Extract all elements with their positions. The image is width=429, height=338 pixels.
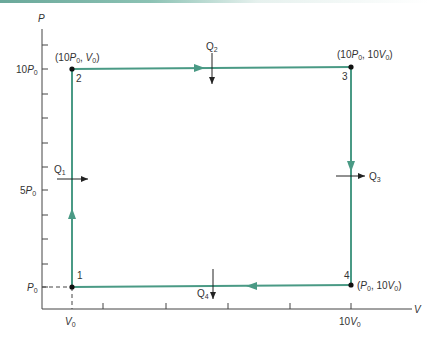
heat-q4: Q4 bbox=[197, 269, 213, 300]
point-2-coords: (10P0, V0) bbox=[55, 52, 100, 64]
point-2-label: 2 bbox=[76, 73, 82, 84]
arrow-right-icon bbox=[194, 64, 205, 72]
x-tick-v0: V0 bbox=[65, 316, 76, 328]
point-3 bbox=[348, 64, 353, 69]
y-tick-10p0: 10P0 bbox=[16, 64, 38, 76]
svg-text:(P0, 10V0): (P0, 10V0) bbox=[357, 280, 402, 292]
pv-diagram: P V 10P0 5P0 P0 V0 10V0 1 2 3 4 (10 bbox=[0, 0, 429, 338]
svg-text:(10P0, V0): (10P0, V0) bbox=[55, 52, 100, 64]
svg-text:Q3: Q3 bbox=[369, 171, 381, 183]
y-axis-label: P bbox=[38, 13, 45, 24]
heat-q3: Q3 bbox=[336, 171, 381, 183]
axes bbox=[42, 29, 412, 309]
point-4-label: 4 bbox=[344, 270, 350, 281]
point-2 bbox=[69, 66, 74, 71]
svg-text:10P0: 10P0 bbox=[16, 64, 38, 76]
heat-q2: Q2 bbox=[206, 41, 218, 84]
point-4-coords: (P0, 10V0) bbox=[357, 280, 402, 292]
x-axis-label: V bbox=[414, 304, 422, 315]
cycle-path bbox=[72, 67, 351, 287]
path-direction-arrows bbox=[68, 64, 355, 290]
point-1 bbox=[69, 284, 74, 289]
svg-text:Q1: Q1 bbox=[54, 164, 66, 176]
arrow-down-icon bbox=[347, 161, 355, 172]
point-3-coords: (10P0, 10V0) bbox=[337, 49, 393, 61]
svg-text:5P0: 5P0 bbox=[20, 185, 36, 197]
arrow-up-icon bbox=[68, 208, 76, 219]
svg-text:(10P0, 10V0): (10P0, 10V0) bbox=[337, 49, 393, 61]
state-points bbox=[69, 64, 353, 289]
svg-text:10V0: 10V0 bbox=[339, 316, 361, 328]
arrow-left-icon bbox=[246, 282, 257, 290]
svg-text:V0: V0 bbox=[65, 316, 76, 328]
x-tick-10v0: 10V0 bbox=[339, 316, 361, 328]
y-tick-p0: P0 bbox=[27, 282, 38, 294]
y-tick-5p0: 5P0 bbox=[20, 185, 36, 197]
point-4 bbox=[348, 282, 353, 287]
svg-text:P0: P0 bbox=[27, 282, 38, 294]
svg-text:Q4: Q4 bbox=[197, 288, 209, 300]
svg-text:Q2: Q2 bbox=[206, 41, 218, 53]
point-3-label: 3 bbox=[342, 71, 348, 82]
point-1-label: 1 bbox=[77, 270, 83, 281]
